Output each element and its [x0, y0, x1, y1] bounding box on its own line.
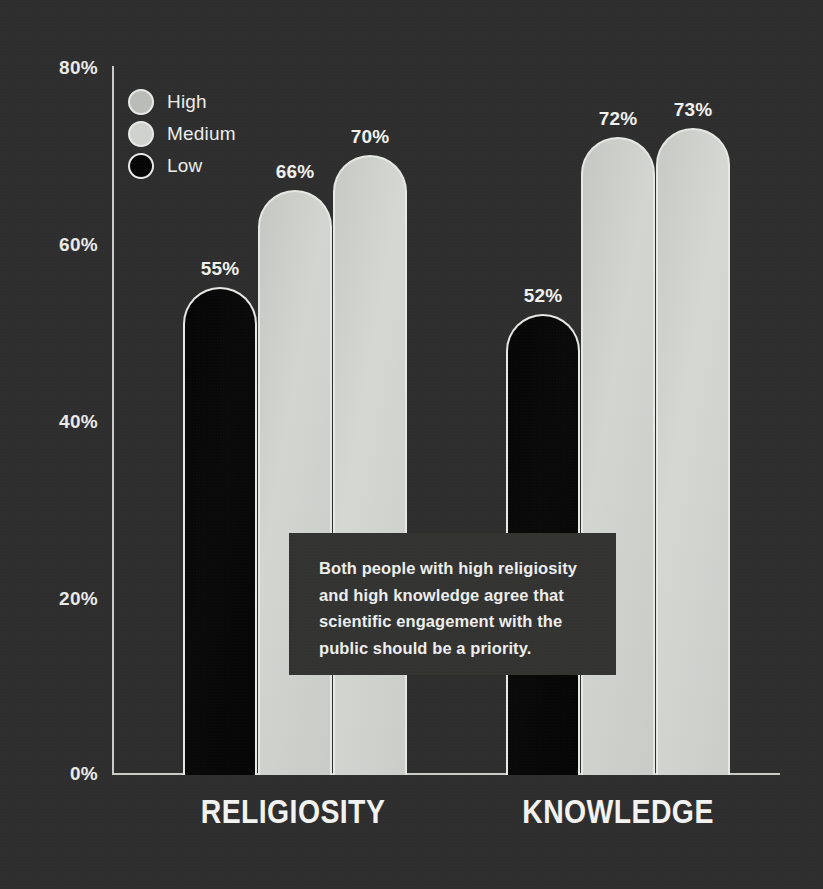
- bar-religiosity-medium[interactable]: 66%: [258, 190, 332, 775]
- legend-label-medium: Medium: [167, 123, 236, 145]
- annotation-callout: Both people with high religiosity and hi…: [289, 533, 616, 675]
- legend-label-high: High: [167, 91, 207, 113]
- bar-religiosity-low[interactable]: 55%: [183, 287, 257, 775]
- bar-value-religiosity-low: 55%: [201, 258, 240, 280]
- y-axis-line: [112, 66, 114, 775]
- bar-value-knowledge-high: 73%: [674, 99, 713, 121]
- annotation-callout-text: Both people with high religiosity and hi…: [319, 555, 590, 662]
- bar-value-religiosity-medium: 66%: [276, 161, 315, 183]
- x-axis-label-religiosity: RELIGIOSITY: [186, 793, 401, 831]
- bar-knowledge-high[interactable]: 73%: [656, 128, 730, 775]
- legend-item-medium[interactable]: Medium: [128, 120, 236, 148]
- bar-value-knowledge-low: 52%: [524, 285, 563, 307]
- chart-container: 80% 60% 40% 20% 0% 55% 66% 70% 52% 72% 7…: [0, 0, 823, 889]
- x-axis-label-knowledge-text: KNOWLEDGE: [522, 793, 713, 831]
- legend-item-low[interactable]: Low: [128, 152, 236, 180]
- y-tick-40: 40%: [59, 411, 98, 433]
- legend-item-high[interactable]: High: [128, 88, 236, 116]
- bar-religiosity-high[interactable]: 70%: [333, 155, 407, 775]
- bar-value-religiosity-high: 70%: [351, 126, 390, 148]
- bar-knowledge-medium[interactable]: 72%: [581, 137, 655, 775]
- x-axis-label-knowledge: KNOWLEDGE: [507, 793, 730, 831]
- legend-label-low: Low: [167, 155, 202, 177]
- legend-swatch-medium-icon: [128, 121, 154, 147]
- y-tick-60: 60%: [59, 234, 98, 256]
- bar-value-knowledge-medium: 72%: [599, 108, 638, 130]
- y-tick-20: 20%: [59, 588, 98, 610]
- legend-swatch-low-icon: [128, 153, 154, 179]
- legend-swatch-high-icon: [128, 89, 154, 115]
- legend: High Medium Low: [128, 88, 236, 184]
- y-tick-80: 80%: [59, 57, 98, 79]
- y-tick-0: 0%: [70, 763, 98, 785]
- x-axis-label-religiosity-text: RELIGIOSITY: [201, 793, 385, 831]
